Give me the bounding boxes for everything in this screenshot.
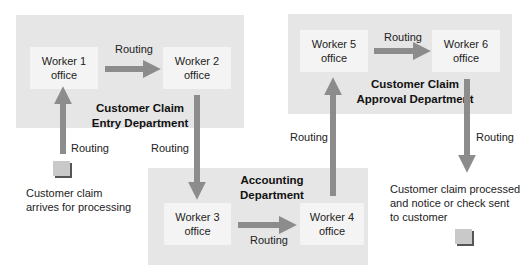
routing-arrows: [0, 0, 525, 270]
routing-label-w5-w6: Routing: [384, 30, 422, 44]
routing-label-w1-w2: Routing: [115, 42, 153, 56]
note-line: and notice or check sent: [390, 197, 509, 209]
routing-label-w6-out: Routing: [476, 130, 514, 144]
note-line: Customer claim: [26, 187, 102, 199]
document-icon-outgoing-notice: [455, 229, 472, 244]
routing-label-w2-w3: Routing: [151, 141, 189, 155]
document-icon-incoming-claim: [53, 161, 70, 176]
routing-label-claim-w1: Routing: [71, 141, 109, 155]
note-claim-processed: Customer claim processed and notice or c…: [390, 182, 520, 224]
note-line: arrives for processing: [26, 201, 131, 213]
note-claim-arrives: Customer claim arrives for processing: [26, 186, 131, 214]
routing-label-w4-w5: Routing: [290, 130, 328, 144]
note-line: to customer: [390, 211, 447, 223]
note-line: Customer claim processed: [390, 183, 520, 195]
routing-label-w3-w4: Routing: [250, 233, 288, 247]
